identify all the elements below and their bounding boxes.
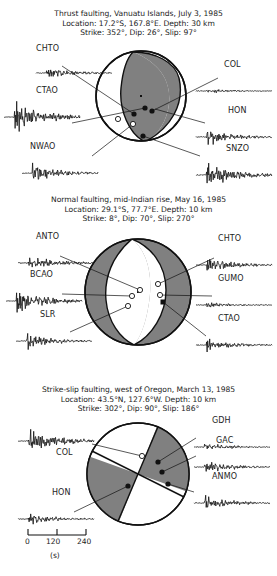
station-label-CTAO: CTAO (36, 86, 58, 95)
panel-strike-slip: Strike-slip faulting, west of Oregon, Ma… (0, 375, 277, 525)
station-label-GUMO: GUMO (218, 274, 244, 283)
panel-strike-slip-plot: COL HON GDH GAC ANMO (0, 414, 277, 532)
panel-normal-title: Normal faulting, mid-Indian rise, May 16… (0, 195, 277, 205)
scale-bar-ticks (0, 525, 277, 551)
seismogram-CTAO-2 (196, 328, 272, 362)
station-label-CHTO-2: CHTO (218, 234, 241, 243)
panel-thrust-mechanism: Strike: 352°, Dip: 26°, Slip: 97° (0, 28, 277, 38)
panel-normal-plot: ANTO BCAO SLR CHTO GUMO CTAO (0, 224, 277, 376)
panel-thrust: Thrust faulting, Vanuatu Islands, July 3… (0, 0, 277, 185)
station-label-HON-2: HON (52, 488, 71, 497)
station-label-CTAO-2: CTAO (218, 314, 240, 323)
panel-strike-slip-mechanism: Strike: 302°, Dip: 90°, Slip: 186° (0, 404, 277, 414)
panel-strike-slip-title: Strike-slip faulting, west of Oregon, Ma… (0, 385, 277, 395)
station-label-CHTO: CHTO (36, 44, 59, 53)
polarity-markers-normal (125, 281, 165, 308)
scale-unit-label: (s) (50, 551, 60, 560)
panel-strike-slip-caption: Strike-slip faulting, west of Oregon, Ma… (0, 375, 277, 414)
station-label-SLR: SLR (40, 310, 55, 319)
seismogram-CHTO (36, 56, 112, 90)
panel-normal-location: Location: 29.1°S, 77.7°E. Depth: 10 km (0, 205, 277, 215)
station-label-COL-2: COL (56, 448, 73, 457)
panel-thrust-plot: CHTO CTAO NWAO COL HON SNZO (0, 38, 277, 186)
time-scale-bar: 0 120 240 (s) (0, 525, 277, 576)
station-label-ANMO: ANMO (212, 472, 237, 481)
station-label-HON: HON (228, 106, 247, 115)
station-label-ANTO: ANTO (36, 232, 59, 241)
station-label-BCAO: BCAO (30, 270, 53, 279)
panel-thrust-caption: Thrust faulting, Vanuatu Islands, July 3… (0, 0, 277, 38)
panel-normal: Normal faulting, mid-Indian rise, May 16… (0, 185, 277, 375)
scale-tick-240: 240 (77, 537, 91, 546)
station-label-NWAO: NWAO (30, 142, 56, 151)
panel-normal-caption: Normal faulting, mid-Indian rise, May 16… (0, 185, 277, 224)
panel-normal-mechanism: Strike: 8°, Dip: 70°, Slip: 270° (0, 214, 277, 224)
seismogram-SLR (16, 324, 92, 358)
panel-strike-slip-location: Location: 43.5°N, 127.6°W. Depth: 10 km (0, 395, 277, 405)
scale-tick-0: 0 (25, 537, 30, 546)
panel-thrust-title: Thrust faulting, Vanuatu Islands, July 3… (0, 9, 277, 19)
station-label-GAC: GAC (216, 436, 233, 445)
station-label-COL: COL (224, 60, 241, 69)
seismogram-ANMO (194, 486, 270, 520)
seismogram-COL (196, 74, 272, 108)
station-label-SNZO: SNZO (226, 144, 249, 153)
seismogram-CTAO (4, 100, 80, 134)
panel-thrust-location: Location: 17.2°S, 167.8°E. Depth: 30 km (0, 19, 277, 29)
station-label-GDH: GDH (212, 416, 231, 425)
scale-tick-120: 120 (46, 537, 60, 546)
